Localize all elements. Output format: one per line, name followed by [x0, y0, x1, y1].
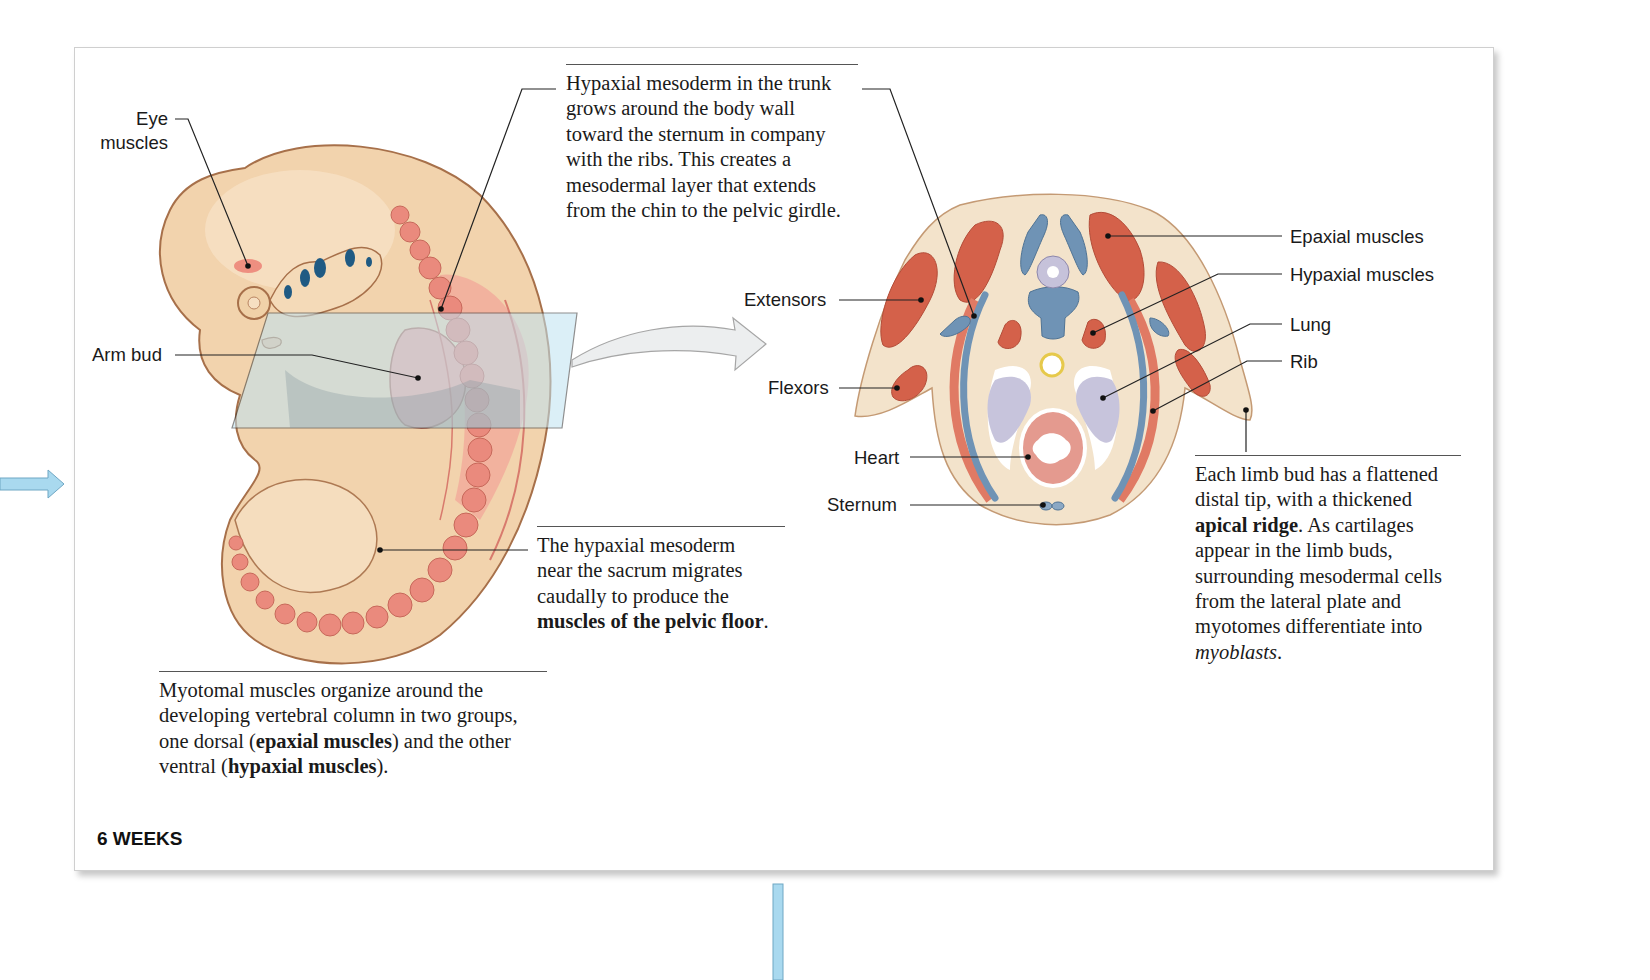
- caption-text: ) and the other: [392, 730, 511, 752]
- label-eye-muscles: Eye muscles: [100, 107, 168, 155]
- label-flexors: Flexors: [768, 376, 829, 400]
- caption-bold-term: epaxial muscles: [256, 730, 392, 752]
- caption-line: Myotomal muscles organize around the: [159, 678, 547, 703]
- label-eye-muscles-line1: Eye: [100, 107, 168, 131]
- caption-line: distal tip, with a thickened: [1195, 487, 1461, 512]
- cross-section-illustration: [855, 194, 1252, 524]
- caption-limb-bud: Each limb bud has a flattened distal tip…: [1195, 455, 1461, 665]
- section-arrow-icon: [572, 318, 766, 370]
- label-rib: Rib: [1290, 350, 1318, 374]
- caption-line: mesodermal layer that extends: [566, 173, 858, 198]
- caption-line: developing vertebral column in two group…: [159, 703, 547, 728]
- caption-bold-term: apical ridge: [1195, 514, 1298, 536]
- caption-line: apical ridge. As cartilages: [1195, 513, 1461, 538]
- flow-connector-bottom: [773, 884, 783, 980]
- caption-line: grows around the body wall: [566, 96, 858, 121]
- caption-italic-term: myoblasts: [1195, 641, 1277, 663]
- flow-arrow-left-icon: [0, 470, 64, 498]
- caption-line: appear in the limb buds,: [1195, 538, 1461, 563]
- caption-rule: [566, 64, 858, 65]
- label-hypaxial-muscles: Hypaxial muscles: [1290, 263, 1434, 287]
- caption-line: with the ribs. This creates a: [566, 147, 858, 172]
- caption-line: myoblasts.: [1195, 640, 1461, 665]
- caption-text: ).: [377, 755, 389, 777]
- caption-line: from the lateral plate and: [1195, 589, 1461, 614]
- label-sternum: Sternum: [827, 493, 897, 517]
- caption-punct: .: [1277, 641, 1282, 663]
- caption-line: muscles of the pelvic floor.: [537, 609, 785, 634]
- caption-line: The hypaxial mesoderm: [537, 533, 785, 558]
- caption-line: ventral (hypaxial muscles).: [159, 754, 547, 779]
- caption-bold-term: muscles of the pelvic floor: [537, 610, 764, 632]
- caption-text: ventral (: [159, 755, 228, 777]
- caption-line: Each limb bud has a flattened: [1195, 462, 1461, 487]
- caption-line: one dorsal (epaxial muscles) and the oth…: [159, 729, 547, 754]
- caption-bold-term: hypaxial muscles: [228, 755, 377, 777]
- caption-rule: [159, 671, 547, 672]
- caption-rule: [537, 526, 785, 527]
- label-arm-bud: Arm bud: [92, 343, 162, 367]
- caption-line: myotomes differentiate into: [1195, 614, 1461, 639]
- caption-rule: [1195, 455, 1461, 456]
- label-lung: Lung: [1290, 313, 1331, 337]
- caption-line: Hypaxial mesoderm in the trunk: [566, 71, 858, 96]
- label-extensors: Extensors: [744, 288, 826, 312]
- label-heart: Heart: [854, 446, 899, 470]
- caption-trunk: Hypaxial mesoderm in the trunk grows aro…: [566, 64, 858, 223]
- caption-line: from the chin to the pelvic girdle.: [566, 198, 858, 223]
- caption-myotomal: Myotomal muscles organize around the dev…: [159, 671, 547, 780]
- label-eye-muscles-line2: muscles: [100, 131, 168, 155]
- caption-text: . As cartilages: [1298, 514, 1414, 536]
- stage-label: 6 WEEKS: [97, 828, 183, 850]
- caption-sacrum: The hypaxial mesoderm near the sacrum mi…: [537, 526, 785, 635]
- caption-line: surrounding mesodermal cells: [1195, 564, 1461, 589]
- label-epaxial-muscles: Epaxial muscles: [1290, 225, 1424, 249]
- caption-line: near the sacrum migrates: [537, 558, 785, 583]
- caption-line: caudally to produce the: [537, 584, 785, 609]
- section-plane: [232, 313, 577, 428]
- caption-text: one dorsal (: [159, 730, 256, 752]
- caption-punct: .: [764, 610, 769, 632]
- caption-line: toward the sternum in company: [566, 122, 858, 147]
